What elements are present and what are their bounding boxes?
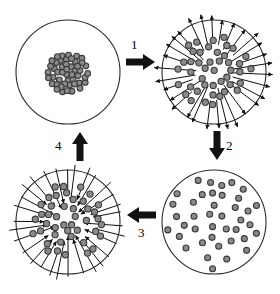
particle: [69, 72, 75, 78]
step-arrow-1-label: 1: [131, 38, 138, 51]
particle: [211, 202, 217, 208]
particle: [98, 221, 104, 227]
particle: [190, 199, 196, 205]
particle: [176, 233, 182, 239]
particle: [54, 248, 60, 254]
particle: [211, 67, 217, 73]
particle: [202, 82, 208, 88]
particle: [54, 86, 60, 92]
particle: [245, 208, 251, 214]
particle: [210, 224, 216, 230]
particle: [224, 74, 230, 80]
particle: [244, 247, 250, 253]
particle: [216, 58, 222, 64]
particle: [90, 246, 96, 252]
particle: [230, 45, 236, 51]
particle: [205, 44, 211, 50]
particle: [208, 180, 214, 186]
arrow-left-icon: [126, 205, 156, 225]
particle: [181, 222, 187, 228]
particle: [247, 222, 253, 228]
particle: [241, 236, 247, 242]
panel-aggregating-inward: [5, 159, 131, 285]
particle: [38, 202, 44, 208]
particle: [95, 216, 101, 222]
particle: [205, 255, 211, 261]
particle: [253, 230, 259, 236]
particle: [61, 203, 67, 209]
particle: [196, 60, 202, 66]
particle: [199, 192, 205, 198]
panel-aggregated-cluster: [5, 9, 131, 135]
particle: [210, 101, 216, 107]
particle: [175, 81, 181, 87]
particle: [46, 194, 52, 200]
particle: [44, 220, 50, 226]
particle: [186, 42, 192, 48]
particle: [191, 213, 197, 219]
arrow-right-icon: [126, 52, 156, 72]
particle: [70, 196, 76, 202]
particle: [236, 195, 242, 201]
particle: [195, 177, 201, 183]
particle: [37, 228, 43, 234]
particle: [221, 34, 227, 40]
particle: [232, 205, 238, 211]
particle: [210, 37, 216, 43]
particle: [209, 234, 215, 240]
particle: [181, 59, 187, 65]
particle: [45, 248, 51, 254]
particle: [233, 227, 239, 233]
particle: [78, 184, 84, 190]
particle: [46, 75, 52, 81]
particle: [53, 214, 59, 220]
step-arrow-4-label: 4: [55, 139, 62, 152]
particle: [64, 190, 70, 196]
particle: [61, 222, 67, 228]
particle: [236, 60, 242, 66]
particle: [221, 53, 227, 59]
particle: [91, 209, 97, 215]
particle: [223, 226, 229, 232]
particle: [229, 180, 235, 186]
particle: [210, 92, 216, 98]
particle: [210, 190, 216, 196]
particle: [65, 228, 71, 234]
particle: [39, 211, 45, 217]
particle: [219, 213, 225, 219]
particle: [216, 243, 222, 249]
particle: [45, 211, 51, 217]
particle: [202, 99, 208, 105]
aggregated-cluster-figure: [5, 9, 131, 135]
particle: [228, 67, 234, 73]
particle: [214, 49, 220, 55]
particle: [219, 183, 225, 189]
particle: [32, 216, 38, 222]
particle: [62, 252, 68, 258]
aggregating-inward-figure: [5, 159, 131, 285]
particle: [52, 232, 58, 238]
diagram-canvas: 1 2 3 4: [0, 0, 280, 294]
particle: [234, 87, 240, 93]
particle: [52, 224, 58, 230]
particle: [44, 241, 50, 247]
particle: [194, 88, 200, 94]
particle: [190, 48, 196, 54]
arrow-down-icon: [207, 131, 227, 161]
particle: [174, 214, 180, 220]
step-arrow-2-label: 2: [226, 139, 233, 152]
particle: [207, 211, 213, 217]
particle: [48, 203, 54, 209]
particle: [68, 233, 74, 239]
particle: [64, 66, 70, 72]
step-arrow-2: [207, 131, 227, 165]
particle: [87, 191, 93, 197]
particle: [188, 97, 194, 103]
particle: [54, 54, 60, 60]
particle: [81, 240, 87, 246]
particle: [70, 206, 76, 212]
arrow-up-icon: [70, 131, 90, 161]
panel-dispersing-outward: [151, 9, 277, 135]
particle: [207, 59, 213, 65]
particle: [175, 66, 181, 72]
